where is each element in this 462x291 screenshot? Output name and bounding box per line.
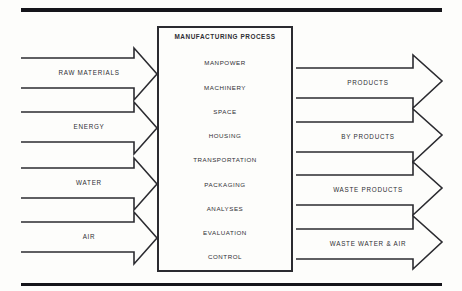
process-item-housing: HOUSING	[157, 133, 293, 139]
input-label-energy: ENERGY	[21, 124, 157, 130]
process-item-manpower: MANPOWER	[157, 60, 293, 66]
process-item-transportation: TRANSPORTATION	[157, 157, 293, 163]
process-item-space: SPACE	[157, 109, 293, 115]
manufacturing-process-diagram: MANUFACTURING PROCESS MANPOWER MACHINERY…	[0, 0, 462, 291]
process-item-packaging: PACKAGING	[157, 182, 293, 188]
process-item-evaluation: EVALUATION	[157, 230, 293, 236]
process-box-title: MANUFACTURING PROCESS	[157, 34, 293, 40]
input-label-water: WATER	[21, 180, 157, 186]
input-label-raw-materials: RAW MATERIALS	[21, 70, 157, 76]
output-label-products: PRODUCTS	[300, 80, 436, 86]
process-item-control: CONTROL	[157, 254, 293, 260]
output-label-waste-water-air: WASTE WATER & AIR	[300, 241, 436, 247]
process-item-analyses: ANALYSES	[157, 206, 293, 212]
input-label-air: AIR	[21, 234, 157, 240]
output-label-waste-products: WASTE PRODUCTS	[300, 187, 436, 193]
process-item-machinery: MACHINERY	[157, 85, 293, 91]
output-label-by-products: BY PRODUCTS	[300, 134, 436, 140]
